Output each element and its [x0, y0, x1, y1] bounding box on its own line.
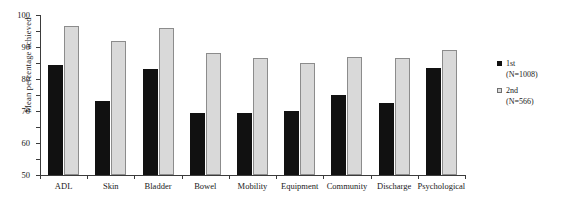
x-axis-label-bladder: Bladder [145, 182, 172, 191]
y-tick-label-40: 40 [22, 203, 31, 204]
y-tick-60: 60 [36, 79, 40, 80]
bar-bowel-1st [190, 113, 205, 175]
y-tick-40: 40 [36, 111, 40, 112]
x-axis-label-bowel: Bowel [194, 182, 216, 191]
bar-skin-1st [95, 101, 110, 175]
bar-discharge-2nd [395, 58, 410, 175]
y-tick-80: 80 [36, 47, 40, 48]
x-tick-4 [229, 175, 230, 179]
x-tick-6 [323, 175, 324, 179]
x-tick-end [465, 175, 466, 179]
bar-mobility-2nd [253, 58, 268, 175]
bar-community-2nd [347, 57, 362, 175]
y-tick-label-100: 100 [17, 11, 30, 20]
y-tick-50: 50 [36, 95, 40, 96]
x-tick-7 [371, 175, 372, 179]
bar-chart: Mean percentage achieved 010203040506070… [0, 0, 562, 204]
x-axis-label-equipment: Equipment [281, 182, 318, 191]
plot-area: 0102030405060708090100 [40, 15, 465, 175]
x-axis-label-adl: ADL [55, 182, 72, 191]
bar-adl-2nd [64, 26, 79, 175]
bar-bowel-2nd [206, 53, 221, 175]
x-axis-label-discharge: Discharge [377, 182, 411, 191]
y-tick-20: 20 [36, 143, 40, 144]
legend-sub-2nd: (N=566) [506, 97, 538, 108]
x-tick-5 [276, 175, 277, 179]
x-tick-3 [182, 175, 183, 179]
bar-psychological-1st [426, 68, 441, 175]
x-axis-label-community: Community [327, 182, 368, 191]
x-tick-0 [40, 175, 41, 179]
x-axis-label-psychological: Psychological [418, 182, 466, 191]
y-tick-90: 90 [36, 31, 40, 32]
legend-sub-1st: (N=1008) [506, 70, 538, 81]
bar-psychological-2nd [442, 50, 457, 175]
bar-adl-1st [48, 65, 63, 175]
x-axis-label-mobility: Mobility [238, 182, 268, 191]
bar-bladder-2nd [159, 28, 174, 175]
legend-entry-2nd: 2nd (N=566) [497, 86, 538, 107]
bar-discharge-1st [379, 103, 394, 175]
y-tick-100: 100 [36, 15, 40, 16]
bar-bladder-1st [143, 69, 158, 175]
bar-skin-2nd [111, 41, 126, 175]
bar-mobility-1st [237, 113, 252, 175]
x-tick-2 [134, 175, 135, 179]
x-axis-label-skin: Skin [103, 182, 119, 191]
chart-legend: 1st (N=1008) 2nd (N=566) [497, 59, 538, 113]
y-tick-label-90: 90 [22, 43, 31, 52]
legend-swatch-2nd-icon [497, 88, 502, 93]
legend-label-2nd: 2nd [506, 86, 518, 97]
y-tick-label-80: 80 [22, 75, 31, 84]
y-tick-30: 30 [36, 127, 40, 128]
y-axis-title: Mean percentage achieved [23, 0, 33, 140]
x-axis-line [40, 175, 466, 176]
legend-swatch-1st-icon [497, 61, 502, 66]
bar-equipment-2nd [300, 63, 315, 175]
legend-entry-1st: 1st (N=1008) [497, 59, 538, 80]
bar-community-1st [331, 95, 346, 175]
y-tick-10: 10 [36, 159, 40, 160]
y-tick-70: 70 [36, 63, 40, 64]
x-tick-8 [418, 175, 419, 179]
legend-label-1st: 1st [506, 59, 515, 70]
x-tick-1 [87, 175, 88, 179]
y-tick-label-70: 70 [22, 107, 31, 116]
y-tick-label-60: 60 [22, 139, 31, 148]
bar-equipment-1st [284, 111, 299, 175]
y-tick-label-50: 50 [22, 171, 31, 180]
y-axis-line [40, 15, 41, 176]
